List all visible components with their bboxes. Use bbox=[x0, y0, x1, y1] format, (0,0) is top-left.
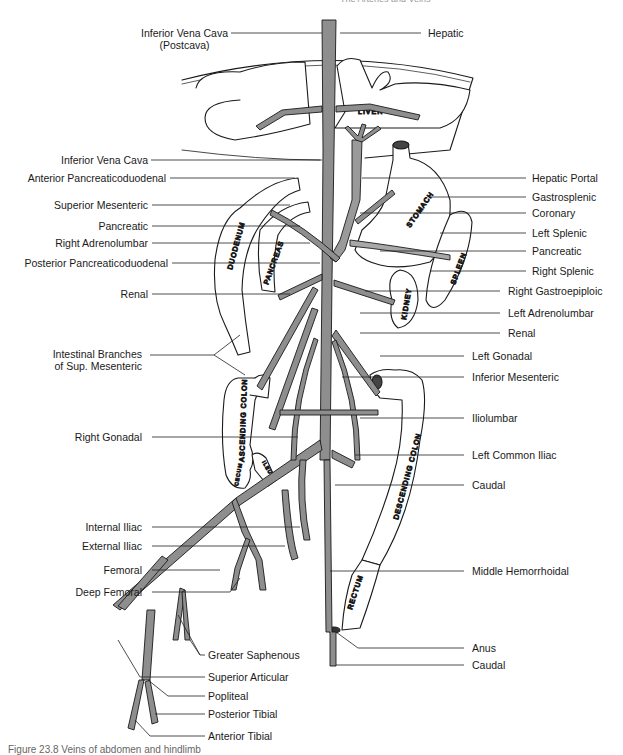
label-hepatic: Hepatic bbox=[428, 27, 464, 39]
renal-vein-left bbox=[334, 280, 395, 305]
label-left-gonadal: Left Gonadal bbox=[472, 350, 532, 362]
label-iliolumbar: Iliolumbar bbox=[472, 412, 518, 424]
label-inferior-vena-cava: Inferior Vena Cava bbox=[61, 154, 148, 166]
iliolumbar-vessel bbox=[280, 410, 378, 415]
label-caudal-lower: Caudal bbox=[472, 659, 505, 671]
leader-anus bbox=[336, 632, 464, 648]
label-hepatic-portal: Hepatic Portal bbox=[532, 172, 598, 184]
label-superior-mesenteric: Superior Mesenteric bbox=[54, 199, 148, 211]
label-renal-left: Renal bbox=[121, 288, 148, 300]
label-femoral: Femoral bbox=[103, 564, 142, 576]
leader-anterior-tibial bbox=[135, 720, 205, 736]
label-pancreatic-right: Pancreatic bbox=[532, 245, 582, 257]
label-superior-articular: Superior Articular bbox=[208, 671, 289, 683]
label-internal-iliac: Internal Iliac bbox=[85, 521, 142, 533]
label-deep-femoral: Deep Femoral bbox=[75, 586, 142, 598]
label-posterior-tibial: Posterior Tibial bbox=[208, 708, 277, 720]
label-gastrosplenic: Gastrosplenic bbox=[532, 191, 596, 203]
label-greater-saphenous: Greater Saphenous bbox=[208, 649, 300, 661]
internal-iliac-vessel bbox=[299, 460, 310, 540]
liver-right-lobe bbox=[335, 58, 470, 128]
label-right-splenic: Right Splenic bbox=[532, 265, 594, 277]
leader-intestinal-branches bbox=[150, 335, 240, 355]
figure-caption: Figure 23.8 Veins of abdomen and hindlim… bbox=[8, 744, 201, 755]
leader-intestinal-branches-2 bbox=[214, 355, 245, 375]
label-caudal-upper: Caudal bbox=[472, 479, 505, 491]
leader-greater-saphenous-2 bbox=[190, 640, 200, 655]
label-right-adrenolumbar: Right Adrenolumbar bbox=[55, 237, 148, 249]
caudal-vessel bbox=[324, 460, 336, 666]
label-pancreatic-left: Pancreatic bbox=[98, 220, 148, 232]
label-anus: Anus bbox=[472, 642, 496, 654]
label-anterior-pancreaticoduodenal: Anterior Pancreaticoduodenal bbox=[28, 172, 166, 184]
intestinal-branch-1 bbox=[257, 287, 318, 390]
label-intestinal-branches: Intestinal Branches of Sup. Mesenteric bbox=[53, 348, 142, 372]
label-line: Inferior Vena Cava bbox=[141, 27, 228, 39]
label-external-iliac: External Iliac bbox=[82, 540, 142, 552]
renal-vein-right bbox=[278, 274, 322, 300]
label-right-gonadal: Right Gonadal bbox=[75, 431, 142, 443]
label-left-common-iliac: Left Common Iliac bbox=[472, 449, 557, 461]
leader-deep-femoral bbox=[152, 578, 240, 592]
label-posterior-pancreaticoduodenal: Posterior Pancreaticoduodenal bbox=[24, 257, 168, 269]
label-line: Intestinal Branches bbox=[53, 348, 142, 360]
label-renal-right: Renal bbox=[508, 327, 535, 339]
common-iliac-left bbox=[332, 450, 355, 468]
popliteal-vessel bbox=[142, 610, 155, 680]
leader-greater-saphenous bbox=[178, 615, 205, 655]
rectum-outline bbox=[342, 560, 380, 630]
label-inferior-vena-cava-postcava: Inferior Vena Cava (Postcava) bbox=[141, 27, 228, 51]
label-right-gastroepiploic: Right Gastroepiploic bbox=[508, 285, 603, 297]
label-left-splenic: Left Splenic bbox=[532, 227, 587, 239]
esophagus-opening bbox=[393, 141, 409, 149]
label-left-adrenolumbar: Left Adrenolumbar bbox=[508, 307, 594, 319]
descending-colon-outline bbox=[362, 370, 425, 565]
label-line: of Sup. Mesenteric bbox=[53, 360, 142, 372]
label-line: (Postcava) bbox=[141, 39, 228, 51]
leader-superior-articular bbox=[118, 640, 205, 677]
inferior-vena-cava-vessel bbox=[320, 20, 336, 460]
leader-popliteal bbox=[148, 680, 205, 696]
label-popliteal: Popliteal bbox=[208, 690, 248, 702]
label-coronary: Coronary bbox=[532, 207, 575, 219]
greater-saphenous-vessel-2 bbox=[182, 590, 190, 640]
label-middle-hemorrhoidal: Middle Hemorrhoidal bbox=[472, 565, 569, 577]
body-wall-lower bbox=[182, 150, 320, 160]
liver-left-lobe bbox=[196, 62, 310, 140]
label-anterior-tibial: Anterior Tibial bbox=[208, 730, 272, 742]
anterior-tibial-vessel bbox=[128, 680, 144, 730]
label-inferior-mesenteric: Inferior Mesenteric bbox=[472, 371, 559, 383]
external-iliac-vessel bbox=[282, 490, 298, 560]
